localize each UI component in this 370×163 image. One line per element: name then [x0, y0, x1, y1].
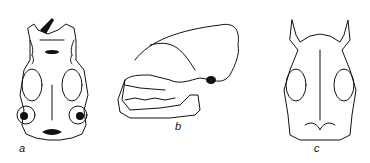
panel-label-c: c: [314, 142, 320, 154]
panel-label-b: b: [175, 120, 181, 132]
skull-dorsal-view: [284, 20, 356, 140]
panel-label-a: a: [19, 142, 25, 154]
skull-drawings: [0, 0, 370, 163]
skull-ventral-view: [17, 24, 88, 140]
skull-lateral-view: [118, 24, 238, 118]
skull-figure: a b c: [0, 0, 370, 163]
